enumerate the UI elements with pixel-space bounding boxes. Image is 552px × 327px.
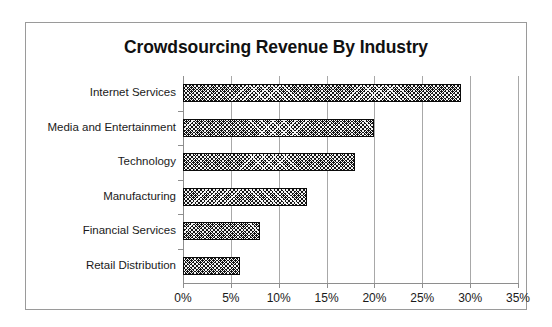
x-tick-label: 10% [267,291,291,305]
bar-internet-services [183,84,461,102]
x-tick-label: 25% [410,291,434,305]
category-axis-labels: Internet ServicesMedia and Entertainment… [26,76,176,283]
x-axis-line [183,283,519,284]
x-tick-mark [183,283,184,288]
x-tick-label: 15% [315,291,339,305]
chart-title: Crowdsourcing Revenue By Industry [26,37,526,58]
y-tick-mark [178,249,183,250]
y-tick-mark [178,180,183,181]
bar-row [183,188,518,206]
y-tick-mark [178,214,183,215]
gridline-15pct [327,76,328,283]
gridline-30pct [470,76,471,283]
x-tick-label: 20% [362,291,386,305]
gridline-5pct [231,76,232,283]
bar-financial-services [183,222,260,240]
x-tick-label: 0% [174,291,191,305]
bar-row [183,119,518,137]
chart-frame: Crowdsourcing Revenue By Industry Intern… [25,22,527,310]
bar-row [183,257,518,275]
bar-retail-distribution [183,257,240,275]
plot-area [183,76,518,283]
x-tick-label: 35% [506,291,530,305]
bar-row [183,153,518,171]
bar-manufacturing [183,188,307,206]
x-tick-mark [422,283,423,288]
bar-technology [183,153,355,171]
category-label-retail-distribution: Retail Distribution [86,259,176,271]
gridline-0pct [183,76,184,283]
gridline-20pct [374,76,375,283]
x-tick-mark [470,283,471,288]
x-tick-mark [231,283,232,288]
x-tick-mark [518,283,519,288]
category-label-manufacturing: Manufacturing [103,190,176,202]
x-tick-mark [279,283,280,288]
x-tick-mark [327,283,328,288]
gridline-10pct [279,76,280,283]
x-tick-label: 30% [458,291,482,305]
category-label-internet-services: Internet Services [90,86,176,98]
category-label-technology: Technology [118,155,176,167]
y-tick-mark [178,145,183,146]
gridline-35pct [518,76,519,283]
gridline-25pct [422,76,423,283]
x-tick-label: 5% [222,291,239,305]
category-label-financial-services: Financial Services [83,224,176,236]
bar-row [183,84,518,102]
y-tick-mark [178,111,183,112]
category-label-media-and-entertainment: Media and Entertainment [48,121,177,133]
bar-media-and-entertainment [183,119,374,137]
x-tick-mark [374,283,375,288]
bar-row [183,222,518,240]
